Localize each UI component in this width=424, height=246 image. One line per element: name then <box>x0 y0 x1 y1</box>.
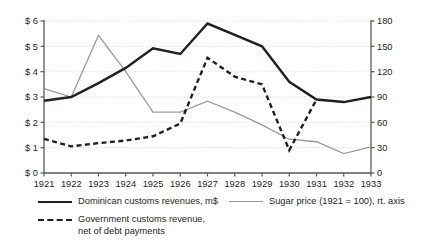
axis-bottom-tick-label: 1928 <box>224 179 245 189</box>
legend-item-dominican-customs-revenues: Dominican customs revenues, m$ <box>38 196 218 208</box>
series-line <box>44 24 371 103</box>
axis-bottom-tick-label: 1932 <box>333 179 354 189</box>
axis-left-tick-label: $ 6 <box>25 16 38 26</box>
axis-bottom-tick-label: 1924 <box>115 179 136 189</box>
axis-bottom-tick-label: 1929 <box>252 179 273 189</box>
series-line <box>44 35 371 153</box>
axis-left-tick-label: $ 2 <box>25 118 38 128</box>
legend-label-government-customs-revenue-line2: net of debt payments <box>78 226 205 238</box>
legend-item-government-customs-revenue: Government customs revenue, net of debt … <box>38 214 205 237</box>
axis-right-tick-label: 180 <box>377 16 393 26</box>
legend-swatch-solid-gray-icon <box>229 196 263 207</box>
chart-container: $ 0$ 1$ 2$ 3$ 4$ 5$ 60306090120150180192… <box>0 0 424 246</box>
legend-swatch-solid-dark-icon <box>38 196 72 207</box>
axis-left-tick-label: $ 0 <box>25 168 38 178</box>
axis-bottom-tick-label: 1921 <box>34 179 55 189</box>
legend-swatch-dashed-icon <box>38 214 72 225</box>
axis-bottom-tick-label: 1930 <box>279 179 300 189</box>
axis-bottom-tick-label: 1927 <box>197 179 218 189</box>
axis-left-tick-label: $ 3 <box>25 92 38 102</box>
axis-bottom-tick-label: 1922 <box>61 179 82 189</box>
legend-label-dominican-customs-revenues: Dominican customs revenues, m$ <box>78 196 218 208</box>
axis-right-tick-label: 90 <box>377 92 387 102</box>
line-chart: $ 0$ 1$ 2$ 3$ 4$ 5$ 60306090120150180192… <box>0 0 424 246</box>
axis-right-tick-label: 150 <box>377 42 393 52</box>
axis-bottom-tick-label: 1931 <box>306 179 327 189</box>
legend-item-sugar-price: Sugar price (1921 = 100), rt. axis <box>229 196 405 208</box>
axis-left-tick-label: $ 1 <box>25 143 38 153</box>
axis-bottom-tick-label: 1926 <box>170 179 191 189</box>
axis-left-tick-label: $ 4 <box>25 67 38 77</box>
axis-right-tick-label: 0 <box>377 168 382 178</box>
axis-left-tick-label: $ 5 <box>25 42 38 52</box>
legend-label-sugar-price: Sugar price (1921 = 100), rt. axis <box>269 196 405 208</box>
axis-bottom-tick-label: 1923 <box>88 179 109 189</box>
axis-right-tick-label: 30 <box>377 143 387 153</box>
axis-bottom-tick-label: 1925 <box>143 179 164 189</box>
legend-label-government-customs-revenue: Government customs revenue, net of debt … <box>78 214 205 237</box>
axis-right-tick-label: 120 <box>377 67 393 77</box>
axis-bottom-tick-label: 1933 <box>361 179 382 189</box>
axis-right-tick-label: 60 <box>377 118 387 128</box>
legend-label-government-customs-revenue-line1: Government customs revenue, <box>78 214 205 226</box>
